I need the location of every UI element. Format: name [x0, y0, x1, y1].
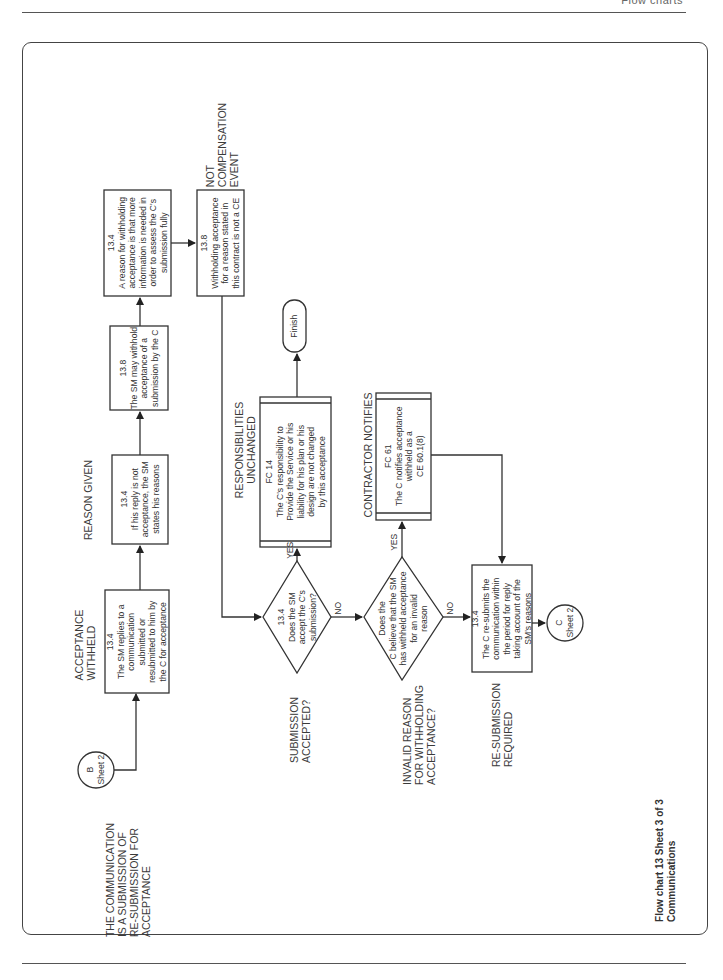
decision-sm-accepts: 13.4 Does the SM accept the C's submissi…	[268, 580, 326, 654]
process-may-withhold: 13.8 The SM may withhold acceptance of a…	[110, 326, 168, 410]
process-not-ce: 13.8 Withholding acceptance for a reason…	[197, 190, 244, 296]
process-sm-replies: 13.4 The SM replies to a communication s…	[105, 590, 169, 693]
label-no-accept: NO	[332, 600, 344, 616]
connector-letter: B	[85, 755, 96, 785]
stage-label-contractor-notifies: CONTRACTOR NOTIFIES	[360, 395, 376, 515]
stage-label-communication: THE COMMUNICATION IS A SUBMISSION OF RE-…	[98, 800, 158, 960]
predefined-process-fc61[interactable]: FC 61 The C notifies acceptance withheld…	[376, 393, 431, 520]
terminal-finish: Finish	[283, 300, 306, 352]
decision-invalid-reason: Does the C believe that the SM has withh…	[370, 575, 436, 661]
label-yes-invalid: YES	[388, 530, 400, 554]
stage-label-not-compensation-event: NOT COMPENSATION EVENT	[200, 100, 244, 190]
connector-letter: C	[554, 608, 565, 638]
connector-b-sheet-2[interactable]: B Sheet 2	[78, 752, 114, 788]
stage-label-submission-accepted: SUBMISSION ACCEPTED?	[280, 690, 320, 770]
stage-label-resubmission-required: RE-SUBMISSION REQUIRED	[484, 680, 520, 770]
process-more-information: 13.4 A reason for withholding acceptance…	[104, 190, 171, 296]
stage-label-acceptance-withheld: ACCEPTANCE WITHHELD	[70, 600, 100, 690]
stage-label-reason-given: REASON GIVEN	[78, 455, 98, 545]
connector-c-sheet-2[interactable]: C Sheet 2	[547, 605, 583, 641]
stage-label-responsibilities-unchanged: RESPONSIBILITIES UNCHANGED	[230, 395, 260, 505]
label-yes-accept: YES	[284, 538, 296, 562]
connector-sheet: Sheet 2	[96, 755, 107, 785]
predefined-process-fc14[interactable]: FC 14 The C's responsibility to Provide …	[260, 397, 331, 547]
process-reason-given: 13.4 If his reply is not acceptance, the…	[112, 455, 168, 544]
connector-sheet: Sheet 2	[565, 608, 576, 638]
figure-caption: Flow chart 13 Sheet 3 of 3 Communication…	[650, 790, 680, 930]
stage-label-invalid-reason: INVALID REASON FOR WITHHOLDING ACCEPTANC…	[394, 680, 444, 790]
label-no-invalid: NO	[444, 600, 456, 616]
process-resubmit: 13.4 The C re-submits the communication …	[472, 565, 532, 672]
